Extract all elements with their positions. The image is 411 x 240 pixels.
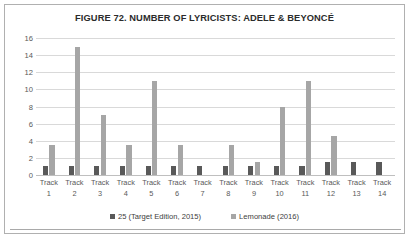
bar-group — [267, 38, 293, 175]
x-tick-label: Track9 — [241, 178, 267, 199]
chart-title: FIGURE 72. NUMBER OF LYRICISTS: ADELE & … — [5, 13, 404, 23]
y-tick-label: 16 — [5, 34, 33, 43]
x-tick-label: Track6 — [164, 178, 190, 199]
x-tick-label: Track8 — [216, 178, 242, 199]
plot-area — [36, 38, 395, 175]
y-tick-label: 0 — [5, 171, 33, 180]
bar-group — [369, 38, 395, 175]
bar[interactable] — [94, 166, 99, 175]
bar[interactable] — [299, 166, 304, 175]
legend-swatch-icon — [110, 214, 115, 219]
bar-group — [292, 38, 318, 175]
bar[interactable] — [49, 145, 54, 175]
x-tick-label: Track1 — [36, 178, 62, 199]
x-tick-label: Track12 — [318, 178, 344, 199]
y-tick-label: 6 — [5, 119, 33, 128]
y-tick-label: 8 — [5, 102, 33, 111]
bar[interactable] — [171, 166, 176, 175]
x-tick-label: Track3 — [87, 178, 113, 199]
bar[interactable] — [229, 145, 234, 175]
x-axis-line — [36, 175, 395, 176]
bar[interactable] — [75, 47, 80, 175]
y-tick-label: 12 — [5, 68, 33, 77]
bar[interactable] — [331, 136, 336, 175]
bottom-divider — [10, 229, 401, 230]
legend-item[interactable]: Lemonade (2016) — [231, 212, 299, 221]
x-axis-tick-labels: Track1Track2Track3Track4Track5Track6Trac… — [36, 178, 395, 208]
bar-group — [113, 38, 139, 175]
bar-group — [36, 38, 62, 175]
bar[interactable] — [146, 166, 151, 175]
y-axis-tick-labels: 1614121086420 — [5, 38, 33, 175]
x-tick-label: Track4 — [113, 178, 139, 199]
bar[interactable] — [325, 162, 330, 175]
bar-group — [216, 38, 242, 175]
x-tick-label: Track11 — [292, 178, 318, 199]
bar-group — [190, 38, 216, 175]
x-tick-label: Track5 — [139, 178, 165, 199]
y-tick-label: 10 — [5, 85, 33, 94]
bar-group — [139, 38, 165, 175]
y-tick-label: 2 — [5, 153, 33, 162]
legend-label: Lemonade (2016) — [239, 212, 299, 221]
bar[interactable] — [69, 166, 74, 175]
bar[interactable] — [223, 166, 228, 175]
bar-group — [318, 38, 344, 175]
bar[interactable] — [306, 81, 311, 175]
bar-group — [241, 38, 267, 175]
bar[interactable] — [274, 166, 279, 175]
legend-label: 25 (Target Edition, 2015) — [118, 212, 201, 221]
x-tick-label: Track10 — [267, 178, 293, 199]
x-tick-label: Track13 — [344, 178, 370, 199]
y-tick-label: 4 — [5, 136, 33, 145]
bar[interactable] — [152, 81, 157, 175]
x-tick-label: Track2 — [62, 178, 88, 199]
bar[interactable] — [351, 162, 356, 175]
bar-group — [87, 38, 113, 175]
bar[interactable] — [101, 115, 106, 175]
bar[interactable] — [376, 162, 381, 175]
bar[interactable] — [280, 107, 285, 176]
legend-item[interactable]: 25 (Target Edition, 2015) — [110, 212, 201, 221]
bar[interactable] — [255, 162, 260, 175]
chart-legend: 25 (Target Edition, 2015)Lemonade (2016) — [5, 212, 404, 221]
x-tick-label: Track7 — [190, 178, 216, 199]
bar-group — [344, 38, 370, 175]
bar[interactable] — [43, 166, 48, 175]
bar[interactable] — [178, 145, 183, 175]
x-tick-label: Track14 — [369, 178, 395, 199]
bar[interactable] — [197, 166, 202, 175]
legend-swatch-icon — [231, 214, 236, 219]
bar-group — [62, 38, 88, 175]
y-tick-label: 14 — [5, 51, 33, 60]
bar[interactable] — [126, 145, 131, 175]
chart-container: FIGURE 72. NUMBER OF LYRICISTS: ADELE & … — [4, 4, 405, 234]
bar-group — [164, 38, 190, 175]
bar[interactable] — [120, 166, 125, 175]
bar[interactable] — [248, 166, 253, 175]
